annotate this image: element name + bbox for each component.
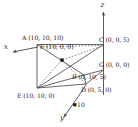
point-label-a: A (10, 10, 10) [22,35,63,41]
point-label-d: D (0, 5, 0) [81,87,111,93]
z-axis-label: z [101,2,105,9]
point-markers [60,58,76,106]
point-marker-f [60,58,63,61]
point-label-g: G (0, 0, 0) [99,62,129,68]
coordinate-diagram: A (10, 10, 10) F (10, 0, 0) C (0, 0, 5) … [0,0,138,127]
y-axis-tick-label-10: 10 [77,102,85,108]
point-label-b: B (0, 10, 5) [72,74,106,80]
point-label-e: E (10, 10, 0) [17,93,55,99]
point-label-f: F (10, 0, 0) [40,44,74,50]
axis-lines [13,12,104,117]
point-marker-y-tick [73,103,76,106]
point-label-c: C (0, 0, 5) [99,37,129,43]
y-axis-label: y [60,115,64,122]
solid-edges [37,45,104,89]
x-axis-label: x [4,44,8,51]
x-axis-line [13,47,38,52]
